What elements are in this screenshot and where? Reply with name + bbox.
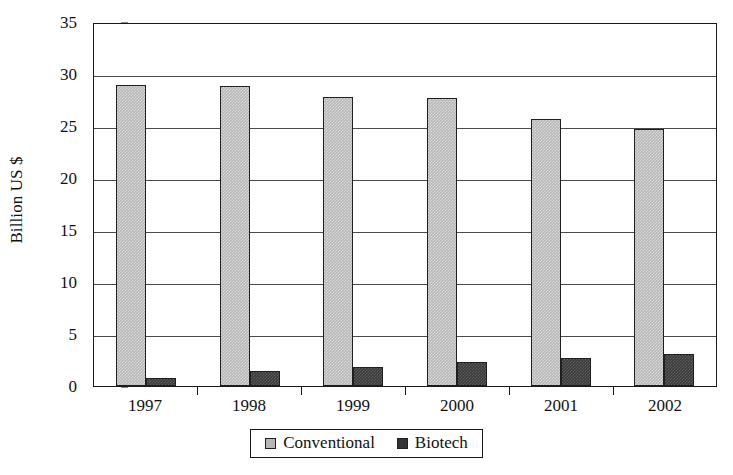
y-tick-label-10: 10: [60, 273, 77, 293]
chart-legend: ConventionalBiotech: [0, 429, 733, 458]
bar-conventional-2000: [427, 98, 457, 386]
bar-conventional-2002: [634, 129, 664, 386]
bar-biotech-1999: [353, 367, 383, 386]
bar-biotech-1998: [250, 371, 280, 386]
y-tick-label-30: 30: [60, 65, 77, 85]
bar-group-1997: [94, 24, 198, 386]
x-tick-mark-3: [405, 387, 406, 395]
y-tick-label-35: 35: [60, 13, 77, 33]
bar-biotech-2001: [561, 358, 591, 386]
legend-label-biotech: Biotech: [415, 433, 468, 453]
legend-label-conventional: Conventional: [283, 433, 375, 453]
x-tick-mark-1: [197, 387, 198, 395]
x-axis: 199719981999200020012002: [93, 387, 717, 421]
bar-chart: Billion US $ 05101520253035 199719981999…: [0, 0, 733, 475]
legend-entry-conventional[interactable]: Conventional: [265, 433, 375, 453]
x-tick-label-2000: 2000: [440, 396, 474, 416]
bar-biotech-1997: [146, 378, 176, 386]
bars-layer: [94, 24, 716, 386]
bar-biotech-2002: [664, 354, 694, 386]
x-tick-mark-2: [301, 387, 302, 395]
y-tick-label-5: 5: [69, 325, 78, 345]
legend-box: ConventionalBiotech: [250, 429, 483, 458]
bar-group-2001: [509, 24, 613, 386]
x-tick-label-2001: 2001: [544, 396, 578, 416]
bar-conventional-2001: [531, 119, 561, 386]
x-tick-label-1999: 1999: [336, 396, 370, 416]
bar-group-1998: [198, 24, 302, 386]
x-tick-label-1997: 1997: [128, 396, 162, 416]
bar-conventional-1997: [116, 85, 146, 386]
y-axis-title-text: Billion US $: [7, 156, 27, 243]
legend-entry-biotech[interactable]: Biotech: [397, 433, 468, 453]
x-tick-mark-5: [613, 387, 614, 395]
y-tick-label-25: 25: [60, 117, 77, 137]
y-tick-label-20: 20: [60, 169, 77, 189]
plot-area: [93, 23, 717, 387]
y-axis-title: Billion US $: [0, 0, 34, 400]
legend-swatch-conventional-icon: [265, 438, 276, 449]
x-tick-label-1998: 1998: [232, 396, 266, 416]
x-tick-label-2002: 2002: [648, 396, 682, 416]
bar-group-2000: [405, 24, 509, 386]
bar-biotech-2000: [457, 362, 487, 386]
bar-conventional-1998: [220, 86, 250, 386]
bar-conventional-1999: [323, 97, 353, 386]
legend-swatch-biotech-icon: [397, 438, 408, 449]
y-tick-label-0: 0: [69, 377, 78, 397]
y-tick-label-15: 15: [60, 221, 77, 241]
bar-group-1999: [301, 24, 405, 386]
y-axis-tick-labels: 05101520253035: [34, 0, 86, 400]
x-tick-mark-4: [509, 387, 510, 395]
bar-group-2002: [612, 24, 716, 386]
